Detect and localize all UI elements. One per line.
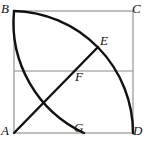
vertex-label-f: F xyxy=(75,70,83,83)
vertex-label-a: A xyxy=(1,124,9,137)
vertex-label-c: C xyxy=(132,2,141,15)
vertex-label-g: G xyxy=(74,121,83,134)
geometry-figure: B C A D E F G xyxy=(0,0,144,146)
segment-a-to-e-through-f xyxy=(14,47,98,133)
vertex-label-b: B xyxy=(1,2,9,15)
vertex-label-e: E xyxy=(100,34,108,47)
geometry-canvas xyxy=(0,0,144,146)
vertex-label-d: D xyxy=(133,124,142,137)
